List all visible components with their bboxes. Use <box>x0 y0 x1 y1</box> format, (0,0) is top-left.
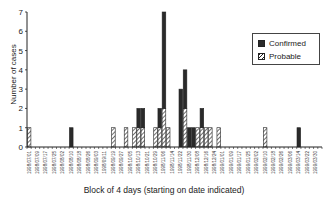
svg-text:1998/09/27: 1998/09/27 <box>119 151 124 174</box>
bar-confirmed <box>297 128 301 147</box>
svg-text:1999/02/10: 1999/02/10 <box>263 151 268 174</box>
svg-text:1999/03/06: 1999/03/06 <box>288 151 293 174</box>
bar-confirmed <box>200 108 204 127</box>
bar-probable <box>196 128 200 147</box>
bar-probable <box>27 128 31 147</box>
svg-text:1998/11/30: 1998/11/30 <box>187 151 192 174</box>
svg-text:1998/07/09: 1998/07/09 <box>35 151 40 174</box>
svg-text:5: 5 <box>19 47 24 56</box>
bar-confirmed <box>179 89 183 147</box>
svg-text:1998/12/16: 1998/12/16 <box>204 151 209 174</box>
epidemic-curve-chart: 012345671998/07/011998/07/091998/07/1719… <box>0 0 328 199</box>
bar-confirmed <box>187 128 191 147</box>
svg-text:1998/09/11: 1998/09/11 <box>102 151 107 174</box>
svg-text:1: 1 <box>19 124 24 133</box>
legend-label-probable: Probable <box>269 52 301 61</box>
svg-text:1999/03/14: 1999/03/14 <box>296 151 301 174</box>
bar-probable <box>183 108 187 147</box>
svg-text:1999/01/17: 1999/01/17 <box>237 151 242 174</box>
svg-text:2: 2 <box>19 104 24 113</box>
svg-text:6: 6 <box>19 27 24 36</box>
bar-probable <box>217 128 221 147</box>
bar-probable <box>154 128 158 147</box>
svg-text:1999/03/30: 1999/03/30 <box>313 151 318 174</box>
svg-text:1998/12/24: 1998/12/24 <box>212 151 217 174</box>
legend: Confirmed Probable <box>252 33 320 65</box>
plot-area: 012345671998/07/011998/07/091998/07/1719… <box>0 0 328 199</box>
bar-confirmed <box>183 70 187 109</box>
svg-text:1998/07/01: 1998/07/01 <box>27 151 32 174</box>
legend-label-confirmed: Confirmed <box>269 39 306 48</box>
legend-item-confirmed: Confirmed <box>258 39 306 48</box>
svg-text:1998/09/03: 1998/09/03 <box>94 151 99 174</box>
bar-probable <box>200 128 204 147</box>
svg-text:1998/10/05: 1998/10/05 <box>128 151 133 174</box>
bar-probable <box>204 128 208 147</box>
svg-text:1998/07/17: 1998/07/17 <box>43 151 48 174</box>
svg-text:1999/02/26: 1999/02/26 <box>279 151 284 174</box>
x-axis-label: Block of 4 days (starting on date indica… <box>0 185 328 195</box>
bar-probable <box>112 128 116 147</box>
svg-text:1998/10/29: 1998/10/29 <box>153 151 158 174</box>
svg-text:1998/08/18: 1998/08/18 <box>77 151 82 174</box>
bar-probable <box>141 128 145 147</box>
svg-text:1998/11/06: 1998/11/06 <box>161 151 166 174</box>
svg-text:1999/01/09: 1999/01/09 <box>229 151 234 174</box>
svg-text:1999/02/18: 1999/02/18 <box>271 151 276 174</box>
bar-probable <box>124 128 128 147</box>
bar-probable <box>209 128 213 147</box>
bar-probable <box>133 128 137 147</box>
svg-text:1998/11/14: 1998/11/14 <box>170 151 175 174</box>
bar-confirmed <box>141 108 145 127</box>
svg-text:4: 4 <box>19 66 24 75</box>
bar-probable <box>263 128 267 147</box>
svg-text:1998/10/21: 1998/10/21 <box>145 151 150 174</box>
svg-text:1998/08/10: 1998/08/10 <box>69 151 74 174</box>
svg-text:1998/10/13: 1998/10/13 <box>136 151 141 174</box>
svg-text:7: 7 <box>19 8 24 17</box>
y-axis-label: Number of cases <box>9 40 18 110</box>
bar-confirmed <box>69 128 73 147</box>
svg-text:1998/08/02: 1998/08/02 <box>60 151 65 174</box>
bar-probable <box>166 128 170 147</box>
confirmed-swatch-icon <box>258 40 265 47</box>
svg-text:1999/01/01: 1999/01/01 <box>220 151 225 174</box>
svg-text:0: 0 <box>19 143 24 152</box>
bar-confirmed <box>158 108 162 127</box>
svg-text:1998/09/19: 1998/09/19 <box>111 151 116 174</box>
probable-swatch-icon <box>258 53 265 60</box>
bar-probable <box>158 128 162 147</box>
svg-text:1999/03/22: 1999/03/22 <box>305 151 310 174</box>
bar-confirmed <box>137 108 141 127</box>
legend-item-probable: Probable <box>258 52 301 61</box>
svg-text:1998/11/22: 1998/11/22 <box>178 151 183 174</box>
svg-text:1998/07/25: 1998/07/25 <box>52 151 57 174</box>
svg-text:3: 3 <box>19 85 24 94</box>
bar-confirmed <box>192 128 196 147</box>
svg-text:1999/01/25: 1999/01/25 <box>246 151 251 174</box>
svg-text:1998/12/08: 1998/12/08 <box>195 151 200 174</box>
bar-confirmed <box>162 12 166 108</box>
svg-text:1998/08/26: 1998/08/26 <box>86 151 91 174</box>
bar-probable <box>137 128 141 147</box>
svg-text:1999/02/02: 1999/02/02 <box>254 151 259 174</box>
bar-probable <box>162 108 166 147</box>
